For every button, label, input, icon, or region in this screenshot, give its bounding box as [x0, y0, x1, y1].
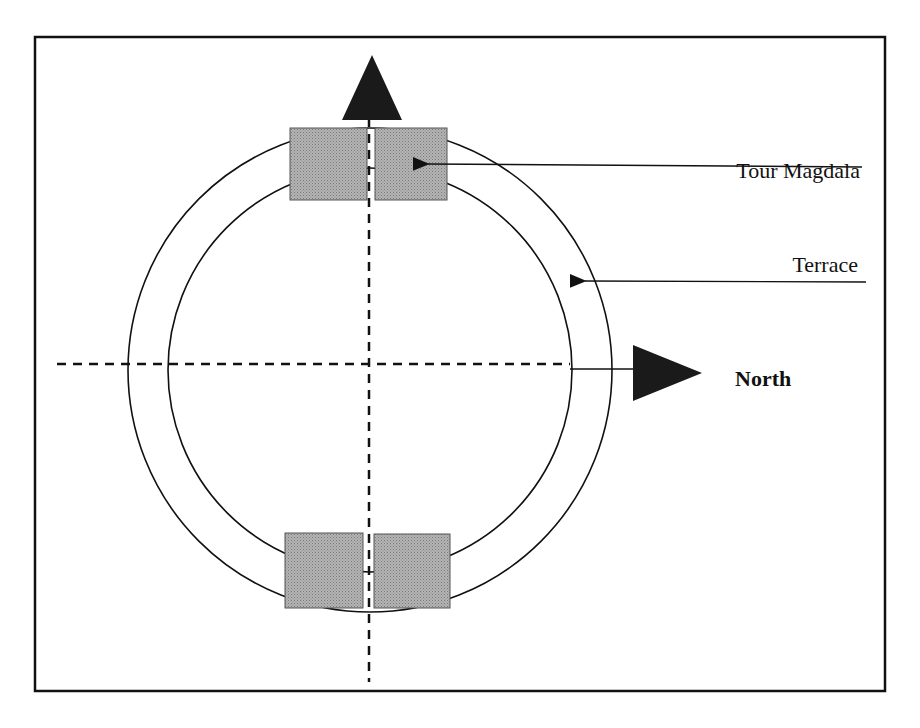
terrace-label: Terrace [792, 252, 858, 278]
tower-bottom-left [285, 533, 363, 608]
site-plan-diagram [0, 0, 920, 728]
north-label: North [735, 366, 791, 392]
inner-wall-circle [168, 168, 572, 572]
north-arrow-top-icon [342, 55, 402, 120]
north-arrow-right-icon [633, 345, 702, 401]
tour-magdala-label: Tour Magdala [736, 158, 860, 184]
tower-top-left [290, 128, 367, 200]
terrace-leader [585, 281, 866, 282]
tower-bottom-right [374, 534, 450, 608]
